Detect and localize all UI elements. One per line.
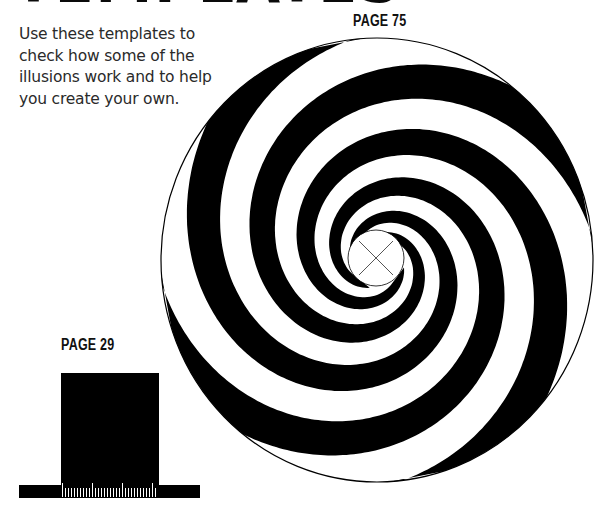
base-bar — [19, 485, 200, 498]
block-template — [0, 0, 610, 511]
black-block — [61, 373, 159, 498]
